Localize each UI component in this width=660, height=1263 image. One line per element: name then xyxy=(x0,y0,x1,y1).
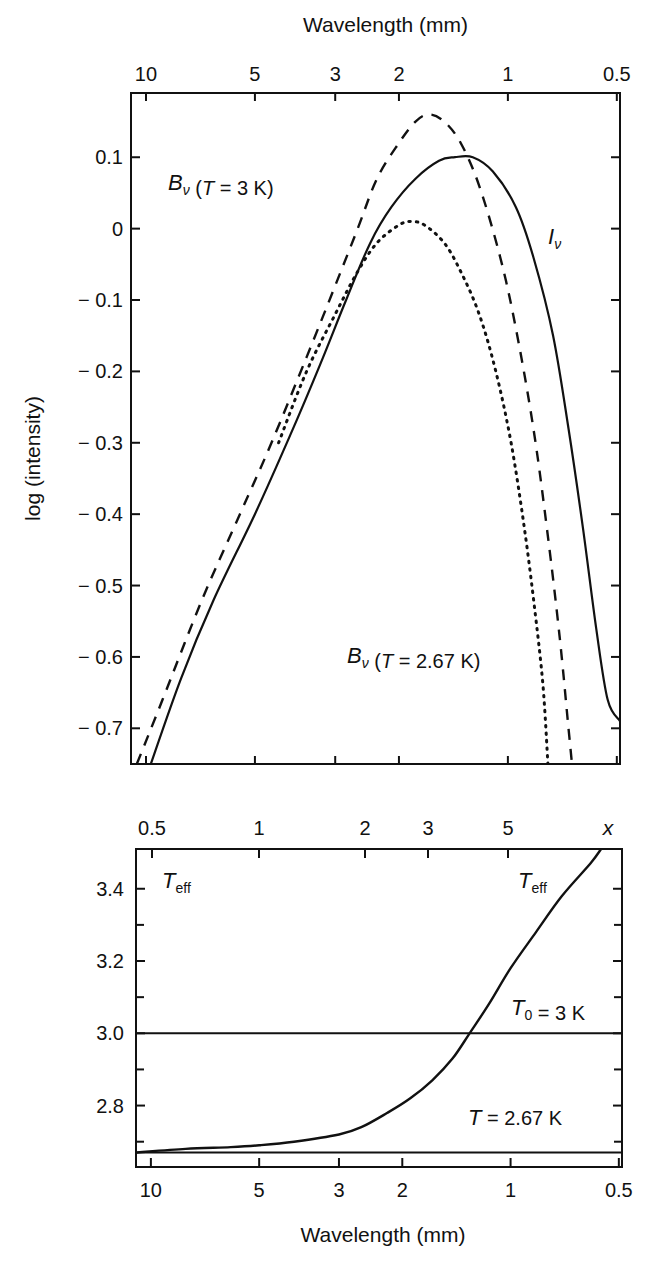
series-label: Teff xyxy=(518,868,547,896)
x-tick-label: 1 xyxy=(505,1179,516,1201)
y-tick-label: − 0.1 xyxy=(78,289,123,311)
series-label: Teff xyxy=(162,868,191,896)
y-tick-label: − 0.2 xyxy=(78,360,123,382)
series-label: Iν xyxy=(548,224,561,252)
x-tick-label: 10 xyxy=(140,1179,162,1201)
x-tick-label: 0.5 xyxy=(603,63,631,85)
y-tick-label: − 0.5 xyxy=(78,575,123,597)
x-tick-label: 5 xyxy=(254,1179,265,1201)
x-tick-label: 0.5 xyxy=(605,1179,633,1201)
x-tick-label: 10 xyxy=(135,63,157,85)
x-tick-label: 1 xyxy=(502,63,513,85)
figure: Wavelength (mm) 1053210.5 0.10− 0.1− 0.2… xyxy=(0,0,660,1263)
y-tick-label: 3.4 xyxy=(96,878,124,900)
series-b-nu-t-2-67-k- xyxy=(279,222,548,765)
y-tick-label: 3.2 xyxy=(96,950,124,972)
spectrum-panel: Wavelength (mm) 1053210.5 0.10− 0.1− 0.2… xyxy=(21,13,631,764)
x-param-tick-label: 0.5 xyxy=(138,817,166,839)
series-label: T = 2.67 K xyxy=(468,1105,563,1130)
bottom-x-axis-ticks: 1053210.5 xyxy=(140,1158,633,1201)
spectrum-annotations: Bν (T = 3 K)IνBν (T = 2.67 K) xyxy=(168,170,561,672)
x-tick-label: 5 xyxy=(249,63,260,85)
y-tick-label: 2.8 xyxy=(96,1095,124,1117)
x-tick-label: 2 xyxy=(393,63,404,85)
x-tick-label: 3 xyxy=(333,1179,344,1201)
x-param-tick-label: 2 xyxy=(359,817,370,839)
x-tick-label: 3 xyxy=(330,63,341,85)
y-tick-label: − 0.4 xyxy=(78,503,123,525)
y-tick-label: 3.0 xyxy=(96,1022,124,1044)
x-param-tick-label: 5 xyxy=(502,817,513,839)
teff-annotations: TeffTeffT0 = 3 KT = 2.67 K xyxy=(162,868,586,1130)
x-param-tick-label: 1 xyxy=(253,817,264,839)
y-tick-label: − 0.3 xyxy=(78,432,123,454)
y-tick-label: − 0.6 xyxy=(78,646,123,668)
y-tick-label: − 0.7 xyxy=(78,717,123,739)
y-tick-label: 0 xyxy=(112,218,123,240)
y-tick-label: 0.1 xyxy=(95,146,123,168)
series-label: Bν (T = 2.67 K) xyxy=(347,643,480,672)
x-param-tick-label: 3 xyxy=(422,817,433,839)
series-label: T0 = 3 K xyxy=(511,995,586,1024)
y-axis-title: log (intensity) xyxy=(21,396,44,521)
series-label: Bν (T = 3 K) xyxy=(168,170,274,199)
x-parameter-axis-ticks: 0.51235 xyxy=(138,817,513,858)
teff-panel: 0.51235 x 1053210.5 3.43.23.02.8 Wavelen… xyxy=(96,816,633,1246)
bottom-x-axis-title: Wavelength (mm) xyxy=(301,1223,466,1246)
top-x-axis-title: Wavelength (mm) xyxy=(303,13,468,36)
x-parameter-axis-title: x xyxy=(602,816,615,839)
x-tick-label: 2 xyxy=(397,1179,408,1201)
